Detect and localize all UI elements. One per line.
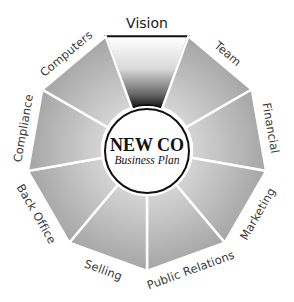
center-subtitle: Business Plan <box>115 154 180 166</box>
business-plan-wheel: VisionTeamFinancialMarketingPublic Relat… <box>0 0 294 302</box>
center-hub: NEW CO Business Plan <box>102 106 192 196</box>
center-title: NEW CO <box>110 135 184 155</box>
segment-label-vision: Vision <box>126 15 168 31</box>
